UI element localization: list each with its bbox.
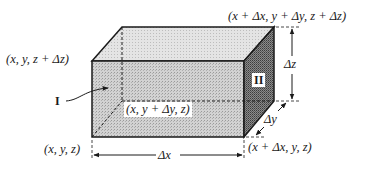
label-dx: Δx (158, 149, 171, 162)
box-diagram: (x, y, z + Δz) (x + Δx, y + Δy, z + Δz) … (0, 0, 375, 172)
label-corner-top-left: (x, y, z + Δz) (6, 53, 69, 66)
label-corner-back-bottom: (x, y + Δy, z) (124, 102, 192, 117)
label-corner-top-far: (x + Δx, y + Δy, z + Δz) (228, 10, 346, 23)
label-dy: Δy (264, 113, 277, 126)
label-face-I: I (55, 95, 60, 107)
label-face-II: II (252, 73, 265, 87)
front-face-I (92, 61, 244, 137)
label-corner-origin: (x, y, z) (44, 143, 80, 156)
top-face (92, 27, 274, 61)
label-dz: Δz (284, 58, 296, 71)
label-corner-bottom-right: (x + Δx, y, z) (248, 141, 312, 154)
